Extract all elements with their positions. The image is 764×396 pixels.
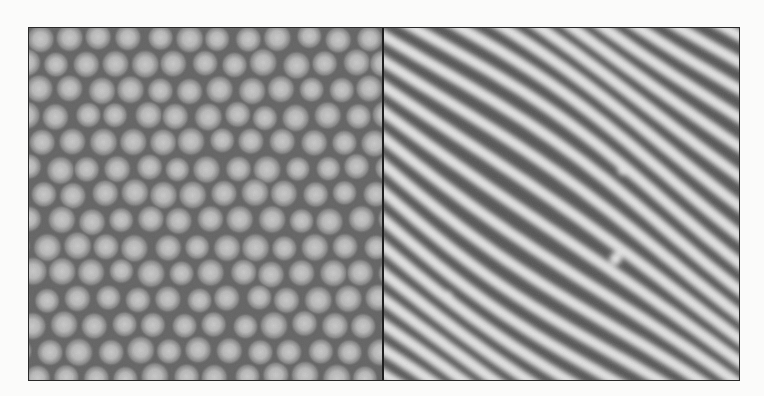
page xyxy=(0,0,764,396)
hexagonal-spot-pattern-image xyxy=(29,28,382,380)
stripe-pattern-image xyxy=(384,28,740,380)
panel-hexagonal-spots xyxy=(29,28,382,380)
panel-labyrinth-stripes xyxy=(384,28,740,380)
figure-two-panel xyxy=(28,27,740,381)
